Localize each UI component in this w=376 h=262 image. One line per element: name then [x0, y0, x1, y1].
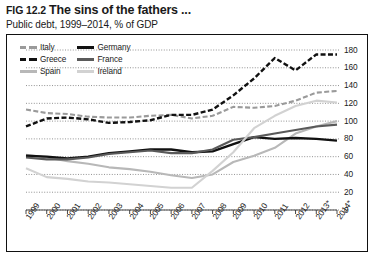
x-axis-label-2002: 2002 [86, 202, 104, 222]
x-axis-label-2004: 2004 [128, 202, 146, 222]
figure-container: FIG 12.2The sins of the fathers ... Publ… [0, 0, 376, 262]
x-axis-label-2010: 2010 [252, 202, 270, 222]
x-axis-label-2001: 2001 [65, 202, 83, 222]
x-axis-label-2007: 2007 [190, 202, 208, 222]
x-axis-label-2011: 2011 [273, 202, 290, 221]
x-axis-label-1999: 1999 [24, 202, 42, 222]
x-axis-label-2014-est: 2014* [335, 199, 354, 221]
x-axis-label-2008: 2008 [211, 202, 229, 222]
x-axis-label-2013-est: 2013* [314, 199, 333, 221]
x-axis-label-2012: 2012 [294, 202, 312, 222]
x-axis-labels: 1999200020012002200320042005200620072008… [0, 0, 376, 262]
x-axis-label-2006: 2006 [169, 202, 187, 222]
x-axis-label-2000: 2000 [45, 202, 63, 222]
x-axis-label-2009: 2009 [231, 202, 249, 222]
x-axis-label-2003: 2003 [107, 202, 125, 222]
x-axis-label-2005: 2005 [148, 202, 166, 222]
